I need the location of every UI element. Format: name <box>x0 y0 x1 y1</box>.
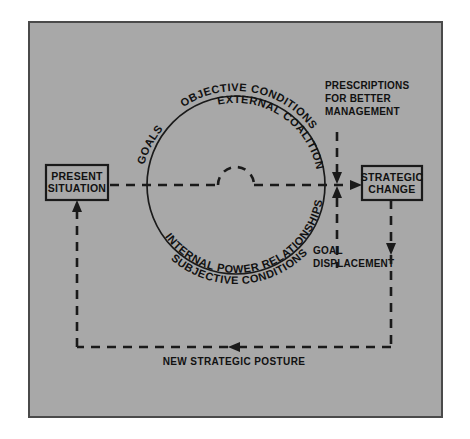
feedback-loop-label: NEW STRATEGIC POSTURE <box>163 356 306 367</box>
prescriptions-label-line3: MANAGEMENT <box>325 106 400 117</box>
prescriptions-label-line1: PRESCRIPTIONS <box>325 80 409 91</box>
goal-displacement-label-line2: DISPLACEMENT <box>313 258 394 269</box>
prescriptions-label-line2: FOR BETTER <box>325 93 391 104</box>
diagram-figure: OBJECTIVE CONDITIONS EXTERNAL COALITION … <box>0 0 470 439</box>
present-situation-label-line2: SITUATION <box>48 182 107 194</box>
strategic-change-label-line1: STRATEGIC <box>361 171 424 183</box>
strategic-change-cycle-diagram: OBJECTIVE CONDITIONS EXTERNAL COALITION … <box>0 0 470 439</box>
strategic-change-label-line2: CHANGE <box>368 183 415 195</box>
present-situation-label-line1: PRESENT <box>51 170 103 182</box>
goal-displacement-label-line1: GOAL <box>313 245 343 256</box>
